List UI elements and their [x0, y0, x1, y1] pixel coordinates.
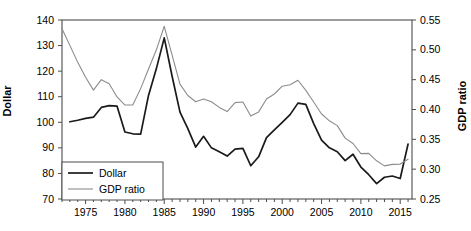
x-tick-label: 1975: [74, 206, 98, 218]
y-tick-label-left: 90: [42, 141, 54, 153]
chart-figure: 197519801985199019952000200520102015 708…: [0, 0, 471, 231]
y-axis-right-title: GDP ratio: [456, 81, 468, 132]
y-tick-label-left: 70: [42, 193, 54, 205]
x-tick-label: 2000: [271, 206, 295, 218]
legend-label: GDP ratio: [99, 183, 145, 195]
y-tick-label-right: 0.40: [420, 103, 441, 115]
y-tick-label-left: 110: [37, 90, 54, 102]
y-tick-label-left: 130: [36, 39, 54, 51]
x-tick-label: 1980: [113, 206, 137, 218]
x-tick-label: 1995: [231, 206, 255, 218]
x-tick-label: 2005: [310, 206, 334, 218]
y-axis-right-ticks: 0.250.300.350.400.450.500.55: [412, 14, 441, 205]
y-tick-label-right: 0.30: [420, 163, 441, 175]
series-line-gdp-ratio: [62, 26, 408, 166]
y-axis-left-ticks: 708090100110120130140: [36, 14, 62, 205]
y-tick-label-right: 0.50: [420, 43, 441, 55]
x-tick-label: 2010: [349, 206, 373, 218]
x-axis-ticks: 197519801985199019952000200520102015: [62, 199, 412, 218]
y-axis-left-title: Dollar: [1, 85, 13, 116]
y-tick-label-right: 0.35: [420, 133, 441, 145]
x-tick-label: 1990: [192, 206, 216, 218]
y-tick-label-right: 0.25: [420, 193, 441, 205]
y-tick-label-left: 80: [42, 167, 54, 179]
legend-label: Dollar: [99, 167, 127, 179]
y-tick-label-left: 100: [36, 116, 54, 128]
line-chart-canvas: 197519801985199019952000200520102015 708…: [0, 0, 471, 231]
chart-legend: DollarGDP ratio: [62, 162, 163, 200]
x-tick-label: 1985: [153, 206, 177, 218]
data-series-group: [62, 26, 408, 183]
y-tick-label-right: 0.45: [420, 73, 441, 85]
y-tick-label-left: 120: [36, 65, 54, 77]
y-tick-label-left: 140: [36, 14, 54, 26]
y-tick-label-right: 0.55: [420, 14, 441, 26]
x-tick-label: 2015: [389, 206, 413, 218]
